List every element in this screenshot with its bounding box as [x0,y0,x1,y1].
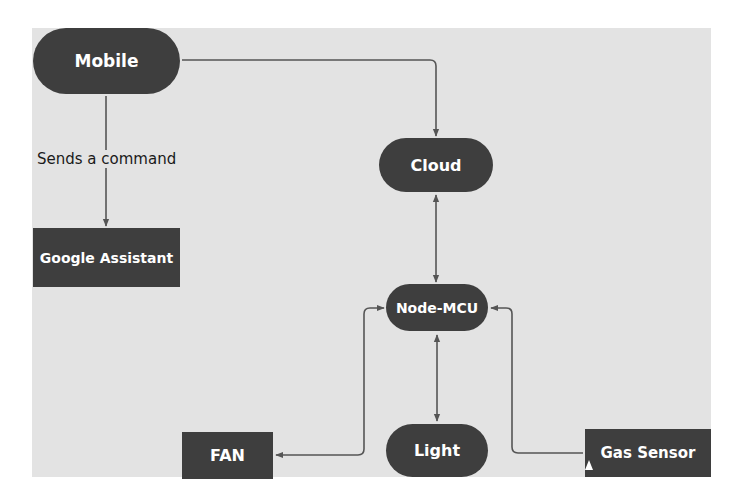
node-mcu: Node-MCU [386,284,488,331]
node-light: Light [386,424,488,477]
node-mobile-label: Mobile [75,51,139,71]
edge-label-sends-command: Sends a command [36,150,177,168]
node-google-assistant-label: Google Assistant [40,250,173,266]
node-mobile: Mobile [33,28,180,94]
node-light-label: Light [414,441,460,460]
node-mcu-label: Node-MCU [396,300,478,316]
node-gas-sensor-label: Gas Sensor [601,444,696,462]
cursor-marker-icon [585,460,593,470]
node-fan-label: FAN [210,446,245,465]
node-google-assistant: Google Assistant [33,228,180,287]
node-gas-sensor: Gas Sensor [585,429,711,477]
node-cloud: Cloud [379,138,493,192]
node-fan: FAN [182,432,273,479]
node-cloud-label: Cloud [410,156,461,175]
